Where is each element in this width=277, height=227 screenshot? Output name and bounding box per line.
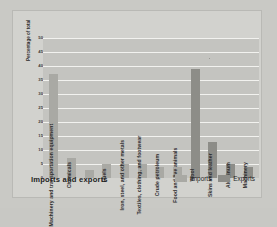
legend-item-exports: Exports: [218, 175, 255, 182]
category-label: Machinery and transportation equipment: [49, 124, 54, 208]
speck: [209, 58, 210, 59]
legend-swatch-imports: [175, 175, 187, 182]
legend-item-imports: Imports: [175, 175, 211, 182]
legend-label: Exports: [233, 175, 255, 182]
bar-slot: Textiles, clothing, and footwear: [133, 38, 151, 178]
bar-slot: [80, 38, 98, 178]
plot-area: Machinery and transportation equipmentCh…: [43, 38, 259, 178]
legend-swatch-exports: [218, 175, 230, 182]
chart-title: Imports and exports: [31, 175, 108, 184]
bar-group: Machinery and transportation equipmentCh…: [43, 38, 259, 178]
bar-slot: Crude petroleum: [151, 38, 169, 178]
bar-slot: Skins and leather: [204, 38, 222, 178]
bar-slot: Machinery and transportation equipment: [45, 38, 63, 178]
bar-slot: Machinery: [239, 38, 257, 178]
bar-slot: Chemicals: [63, 38, 81, 178]
legend: ImportsExports: [175, 175, 255, 182]
bar-slot: Food and live animals: [169, 38, 187, 178]
bar: [191, 69, 200, 178]
y-axis-ticks: 05101520253035404550: [31, 35, 43, 181]
chart-figure: Percentage of total 05101520253035404550…: [0, 0, 277, 208]
category-label: Textiles, clothing, and footwear: [137, 136, 142, 208]
bar-slot: Fuels: [98, 38, 116, 178]
bar-slot: Wool: [186, 38, 204, 178]
bar-slot: Iron, steel, and other metals: [116, 38, 134, 178]
bar-slot: Aluminum: [222, 38, 240, 178]
chart-footer: Imports and exports ImportsExports: [13, 173, 263, 191]
chart-card: Percentage of total 05101520253035404550…: [12, 10, 262, 198]
legend-label: Imports: [190, 175, 211, 182]
